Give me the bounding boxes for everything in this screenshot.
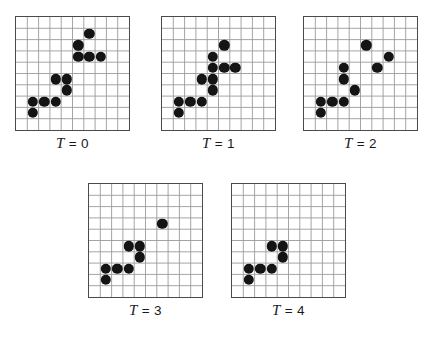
- label-variable: T: [202, 135, 211, 151]
- panel-label: T = 4: [272, 303, 305, 318]
- label-value: = 1: [215, 136, 235, 151]
- grid-canvas: [161, 16, 276, 131]
- grid-canvas: [15, 16, 130, 131]
- label-value: = 4: [285, 303, 305, 318]
- panel-label: T = 0: [56, 136, 89, 151]
- panel-t4: T = 4: [231, 183, 346, 318]
- panel-t0: T = 0: [15, 16, 130, 151]
- grid-canvas: [303, 16, 418, 131]
- panel-label: T = 2: [344, 136, 377, 151]
- grid-canvas: [88, 183, 203, 298]
- figure-container: T = 0T = 1T = 2T = 3T = 4: [0, 0, 434, 339]
- label-variable: T: [272, 302, 281, 318]
- label-value: = 0: [69, 136, 89, 151]
- panel-t2: T = 2: [303, 16, 418, 151]
- grid-canvas: [231, 183, 346, 298]
- label-value: = 3: [142, 303, 162, 318]
- panel-t3: T = 3: [88, 183, 203, 318]
- label-value: = 2: [357, 136, 377, 151]
- panel-t1: T = 1: [161, 16, 276, 151]
- label-variable: T: [129, 302, 138, 318]
- label-variable: T: [344, 135, 353, 151]
- label-variable: T: [56, 135, 65, 151]
- panel-label: T = 1: [202, 136, 235, 151]
- panel-label: T = 3: [129, 303, 162, 318]
